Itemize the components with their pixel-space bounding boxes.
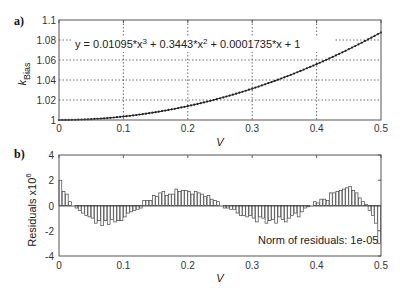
y-tick-label: 2 xyxy=(48,175,54,186)
x-tick-label: 0.3 xyxy=(245,260,259,271)
data-point xyxy=(148,112,150,114)
residual-bar xyxy=(204,197,207,206)
data-point xyxy=(261,84,263,86)
panel-a-frame xyxy=(59,20,381,120)
svg-text:Residuals x106: Residuals x106 xyxy=(24,173,38,247)
y-label-subscript: Bias xyxy=(22,62,32,80)
data-point xyxy=(200,102,202,104)
residual-bar xyxy=(346,188,349,206)
residual-bar xyxy=(333,193,336,206)
residual-bar xyxy=(265,206,268,224)
data-point xyxy=(290,74,292,76)
data-point xyxy=(142,113,144,115)
data-point xyxy=(241,91,243,93)
data-point xyxy=(109,117,111,119)
data-point xyxy=(212,99,214,101)
residual-bar xyxy=(82,206,85,214)
data-point xyxy=(335,54,337,56)
residual-bar xyxy=(143,200,146,205)
residual-bar xyxy=(175,189,178,205)
residual-bar xyxy=(214,200,217,205)
residual-bar xyxy=(114,206,117,222)
data-point xyxy=(158,111,160,113)
data-point xyxy=(325,59,327,61)
x-tick-label: 0.1 xyxy=(116,260,130,271)
residual-bar xyxy=(275,206,278,224)
residual-bar xyxy=(130,206,133,212)
data-point xyxy=(316,63,318,65)
residual-bar xyxy=(111,206,114,220)
data-point xyxy=(206,101,208,103)
data-point xyxy=(322,60,324,62)
data-point xyxy=(267,82,269,84)
residual-bar xyxy=(194,192,197,206)
x-tick-label: 0.2 xyxy=(181,123,195,134)
data-point xyxy=(245,90,247,92)
residual-bar xyxy=(313,202,316,206)
data-point xyxy=(235,93,237,95)
y-tick-label: 1 xyxy=(50,115,56,126)
data-point xyxy=(354,45,356,47)
residual-bar xyxy=(281,206,284,220)
data-point xyxy=(332,56,334,58)
residual-bar xyxy=(262,206,265,219)
x-tick-label: 0 xyxy=(56,260,62,271)
residual-bar xyxy=(243,206,246,216)
x-tick-label: 0.4 xyxy=(310,123,324,134)
data-point xyxy=(132,114,134,116)
data-point xyxy=(283,76,285,78)
x-tick-label: 0.1 xyxy=(116,123,130,134)
residual-bar xyxy=(185,190,188,205)
residual-bar xyxy=(94,206,97,224)
data-point xyxy=(373,35,375,37)
data-point xyxy=(119,116,121,118)
data-point xyxy=(187,105,189,107)
y-tick-label: -4 xyxy=(45,251,54,262)
residual-bar xyxy=(255,206,258,222)
data-point xyxy=(251,88,253,90)
residual-bar xyxy=(178,192,181,206)
x-tick-label: 0.4 xyxy=(310,260,324,271)
data-point xyxy=(232,94,234,96)
residual-bar xyxy=(291,206,294,216)
data-point xyxy=(280,77,282,79)
data-point xyxy=(299,70,301,72)
data-point xyxy=(122,115,124,117)
equation-mid: + 0.3443*x xyxy=(147,38,203,50)
data-point xyxy=(209,100,211,102)
data-point xyxy=(357,43,359,45)
residual-bar xyxy=(62,192,65,206)
panel-a-x-axis-label: V xyxy=(216,136,225,148)
chart-figure: a) 00.10.20.30.40.5 11.021.041.061.081.1… xyxy=(0,0,400,292)
svg-text:kBias: kBias xyxy=(16,62,32,86)
data-point xyxy=(145,113,147,115)
y-tick-label: 0 xyxy=(48,201,54,212)
data-point xyxy=(135,114,137,116)
residual-bar xyxy=(362,202,365,206)
panel-a-label: a) xyxy=(14,14,24,28)
panel-b-x-axis-label: V xyxy=(216,272,225,284)
residual-bar xyxy=(375,206,378,224)
x-tick-label: 0 xyxy=(56,123,62,134)
data-point xyxy=(312,64,314,66)
residual-bar xyxy=(288,206,291,219)
data-point xyxy=(264,83,266,85)
residual-bar xyxy=(217,202,220,206)
data-point xyxy=(151,112,153,114)
data-point xyxy=(348,48,350,50)
residual-bar xyxy=(272,206,275,220)
y-tick-label: 4 xyxy=(48,150,54,161)
data-point xyxy=(367,38,369,40)
data-point xyxy=(138,113,140,115)
residual-bar xyxy=(123,206,126,217)
residual-bar xyxy=(301,206,304,212)
data-point xyxy=(183,106,185,108)
data-point xyxy=(254,87,256,89)
residual-bar xyxy=(188,192,191,206)
residual-bar xyxy=(181,190,184,205)
data-point xyxy=(377,33,379,35)
y-tick-label: 1.02 xyxy=(37,95,57,106)
data-point xyxy=(338,53,340,55)
data-point xyxy=(126,115,128,117)
data-point xyxy=(370,37,372,39)
